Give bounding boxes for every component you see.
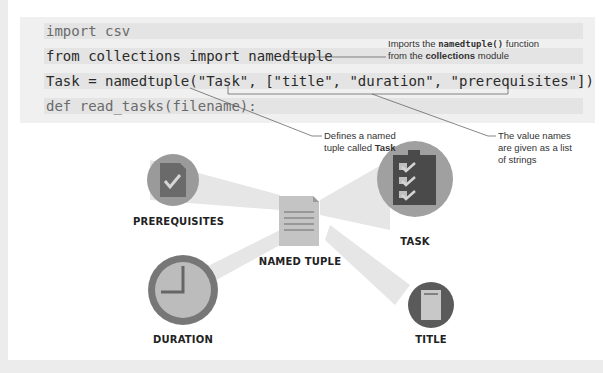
label-task: TASK [385, 236, 445, 247]
label-title: TITLE [401, 334, 461, 345]
label-prerequisites: PREREQUISITES [133, 216, 213, 227]
named-tuple-icon [279, 196, 319, 246]
label-named-tuple: NAMED TUPLE [255, 256, 345, 267]
prerequisites-icon [147, 154, 199, 206]
label-duration: DURATION [143, 334, 223, 345]
duration-icon [148, 255, 218, 325]
title-icon [408, 282, 454, 328]
annotation-defines: Defines a named tuple called Task [324, 130, 396, 154]
annotation-imports: Imports the namedtuple() function from t… [388, 38, 539, 62]
annotation-values: The value names are given as a list of s… [498, 130, 572, 166]
